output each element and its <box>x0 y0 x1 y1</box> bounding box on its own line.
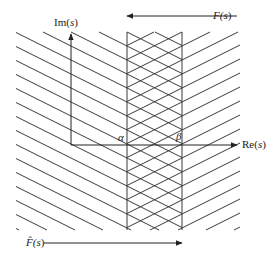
hatch-line-up-right <box>127 171 240 228</box>
diagram-canvas <box>0 0 279 263</box>
hatch-line-up-right <box>234 227 240 230</box>
alpha-label: α <box>118 132 124 143</box>
right-halfplane-hatching <box>127 32 240 230</box>
hatch-line-down-right <box>16 173 131 231</box>
F-hat-transform-label: F̂(s) <box>26 237 44 248</box>
hatch-line-down-right <box>16 201 75 231</box>
hatch-line-up-right <box>127 129 240 186</box>
hatch-line-up-right <box>127 143 240 200</box>
imag-axis-label-suffix: ) <box>74 16 78 28</box>
beta-label: β <box>176 131 181 142</box>
transform-direction-arrows <box>44 16 237 243</box>
hatch-line-up-right <box>127 115 240 172</box>
s-plane-diagram: Im(s) Re(s) α β F(s) F̂(s) <box>0 0 279 263</box>
hatch-line-up-right <box>127 157 240 214</box>
hatch-line-up-right <box>127 101 240 158</box>
hatch-line-down-right <box>16 215 47 231</box>
F-label-suffix: ) <box>228 9 232 21</box>
hatch-line-up-right <box>127 73 240 130</box>
imag-axis-label-prefix: Im( <box>54 16 70 28</box>
F-transform-label: F(s) <box>213 10 231 21</box>
real-axis-label-prefix: Re( <box>242 138 258 150</box>
hatch-line-up-right <box>127 45 240 102</box>
F-hat-label-prefix: F̂( <box>26 236 36 248</box>
F-label-prefix: F( <box>213 9 223 21</box>
hatch-line-up-right <box>178 199 240 230</box>
hatch-line-down-right <box>16 229 19 231</box>
hatch-line-up-right <box>150 185 240 230</box>
real-axis-label: Re(s) <box>242 139 266 150</box>
hatch-line-up-right <box>206 213 240 230</box>
imag-axis-label: Im(s) <box>54 17 78 28</box>
left-halfplane-hatching <box>16 32 182 230</box>
hatch-line-up-right <box>127 87 240 144</box>
F-hat-label-suffix: ) <box>41 236 45 248</box>
real-axis-label-suffix: ) <box>262 138 266 150</box>
hatch-line-up-right <box>127 59 240 116</box>
hatch-line-down-right <box>16 187 103 231</box>
